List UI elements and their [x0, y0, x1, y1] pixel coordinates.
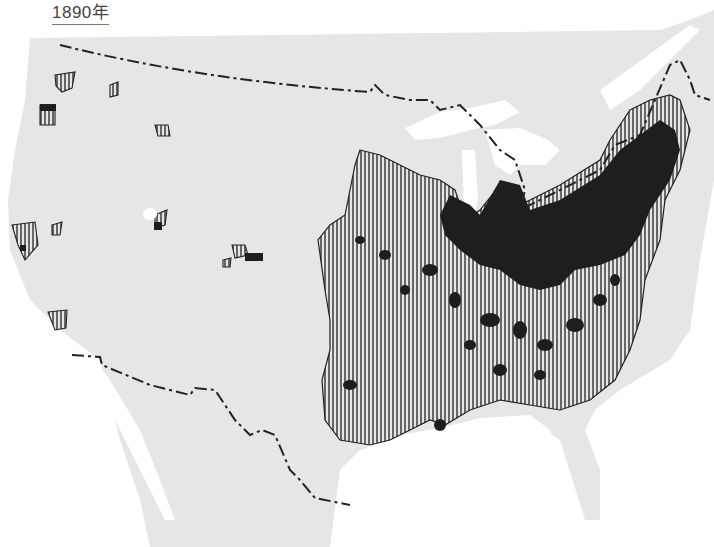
us-map-1890: [0, 0, 714, 547]
great-salt-lake: [143, 208, 157, 220]
